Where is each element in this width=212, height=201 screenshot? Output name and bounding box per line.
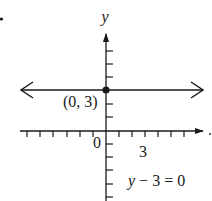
- graph: y (0, 3) 0 3 y − 3 = 0: [0, 0, 212, 201]
- equation-label: y − 3 = 0: [126, 172, 185, 190]
- y-axis-ticks: [106, 51, 113, 197]
- equation-rest: − 3 = 0: [135, 172, 185, 189]
- origin-label: 0: [93, 134, 101, 151]
- x-tick-label-3: 3: [139, 143, 147, 160]
- point-label: (0, 3): [63, 93, 98, 111]
- point-0-3: [102, 86, 109, 93]
- bullet-marker: [0, 17, 3, 20]
- y-axis-label: y: [100, 8, 110, 26]
- x-axis-end-dot: [209, 133, 211, 135]
